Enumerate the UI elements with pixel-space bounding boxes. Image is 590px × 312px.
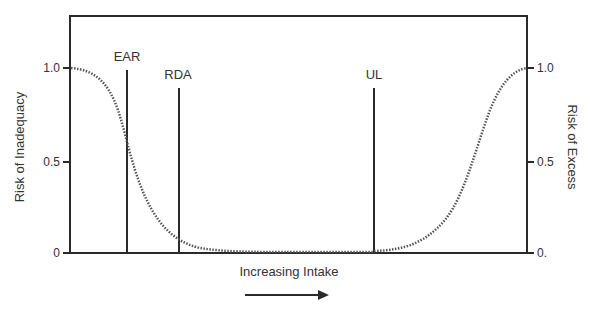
- right-tick-0: 0.: [537, 246, 547, 260]
- inadequacy-curve: [71, 68, 374, 252]
- rda-label: RDA: [164, 67, 192, 82]
- excess-curve: [374, 68, 527, 251]
- risk-chart: 1.0 0.5 0 1.0 0.5 0. Risk of Inadequacy …: [0, 0, 590, 312]
- left-axis: 1.0 0.5 0: [43, 61, 70, 260]
- left-axis-title: Risk of Inadequacy: [12, 91, 27, 202]
- right-tick-05: 0.5: [537, 155, 554, 169]
- left-tick-05: 0.5: [43, 155, 60, 169]
- right-axis-title: Risk of Excess: [565, 104, 580, 190]
- right-tick-1: 1.0: [537, 61, 554, 75]
- ear-label: EAR: [114, 49, 141, 64]
- right-axis: 1.0 0.5 0.: [527, 61, 554, 260]
- left-tick-0: 0: [53, 246, 60, 260]
- ul-label: UL: [366, 67, 383, 82]
- left-tick-1: 1.0: [43, 61, 60, 75]
- increasing-arrow-icon: [245, 290, 329, 300]
- x-axis-title: Increasing Intake: [239, 264, 338, 279]
